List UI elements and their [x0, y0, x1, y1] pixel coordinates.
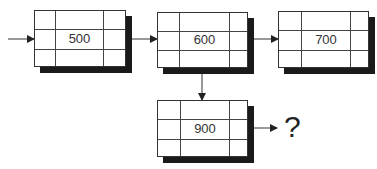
node-value: 900 [181, 121, 229, 136]
node-box: 700 [278, 11, 369, 68]
node-value: 500 [56, 31, 103, 46]
node-value: 600 [180, 32, 229, 47]
node-value: 700 [302, 32, 350, 47]
unknown-next-label: ? [284, 110, 301, 144]
node-box: 600 [157, 12, 248, 68]
node-box: 900 [157, 100, 248, 157]
node-box: 500 [34, 10, 126, 67]
